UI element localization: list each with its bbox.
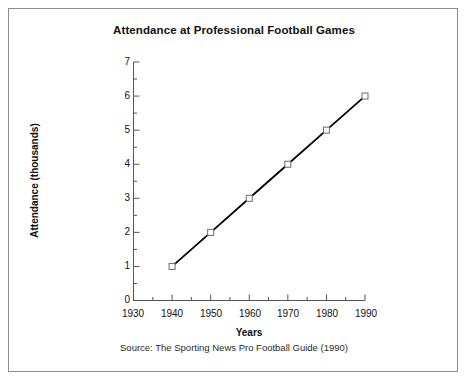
data-point-1970 [285,161,291,167]
x-axis-ticks [134,295,366,301]
data-point-1980 [323,127,329,133]
chart-figure: Attendance at Professional Football Game… [0,0,468,383]
axes [133,62,365,301]
plot-area [0,0,468,383]
data-point-1990 [362,93,368,99]
data-series [169,93,368,269]
data-point-1940 [169,263,175,269]
data-point-1960 [246,195,252,201]
y-axis-ticks [134,62,140,301]
data-point-1950 [208,229,214,235]
series-line-attendance [172,96,365,266]
